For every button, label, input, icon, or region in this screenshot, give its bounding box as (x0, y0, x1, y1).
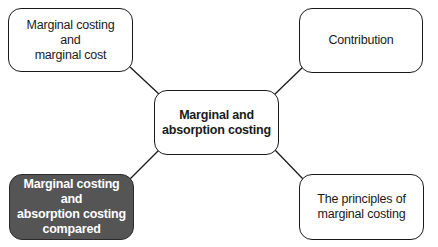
edge-center-bottom-left (130, 150, 159, 179)
node-marginal-vs-absorption-compared: Marginal costing and absorption costing … (9, 174, 134, 240)
node-label: Contribution (328, 33, 393, 48)
node-label: Marginal costing and absorption costing … (16, 177, 127, 237)
center-label: Marginal and absorption costing (162, 108, 271, 138)
node-center-marginal-and-absorption-costing: Marginal and absorption costing (154, 90, 279, 155)
node-marginal-costing-and-marginal-cost: Marginal costing and marginal cost (8, 8, 133, 72)
edge-center-top-left (130, 67, 160, 95)
node-label: Marginal costing and marginal cost (15, 18, 126, 63)
node-label: The principles of marginal costing (317, 192, 405, 222)
node-principles-of-marginal-costing: The principles of marginal costing (299, 174, 424, 240)
edge-center-top-right (274, 67, 303, 95)
edge-center-bottom-right (275, 150, 303, 179)
node-contribution: Contribution (299, 8, 423, 73)
